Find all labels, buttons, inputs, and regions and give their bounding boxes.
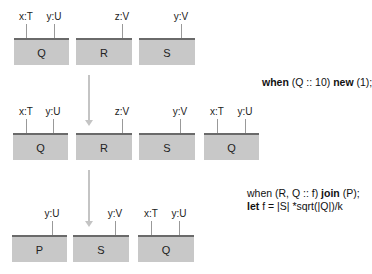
relation-box-q: Q	[138, 235, 194, 262]
attribute-label: y:U	[47, 11, 62, 22]
relation-box-s: S	[139, 133, 195, 160]
attribute-label: y:U	[45, 208, 60, 219]
code-text: (Q :: 10)	[289, 76, 333, 88]
relation-box-q: Q	[204, 133, 259, 160]
relation-box-r: R	[76, 38, 132, 65]
attribute-label: y:V	[174, 11, 188, 22]
arrow-down-1	[88, 75, 90, 121]
attribute-label: z:V	[115, 106, 129, 117]
code-text: when (R, Q :: f)	[247, 187, 321, 199]
relation-box-s: S	[73, 235, 129, 262]
relation-box-s: S	[139, 38, 195, 65]
attribute-label: y:U	[172, 208, 187, 219]
attribute-tick	[181, 24, 182, 38]
attribute-tick	[245, 119, 246, 133]
relation-box-p: P	[12, 235, 67, 262]
attribute-label: y:U	[46, 106, 61, 117]
attribute-tick	[217, 119, 218, 133]
attribute-tick	[26, 119, 27, 133]
relation-box-r: R	[76, 133, 132, 160]
keyword-let: let	[247, 200, 259, 212]
attribute-tick	[180, 119, 181, 133]
step2-line1: when (R, Q :: f) join (P);	[247, 187, 360, 200]
relation-box-q: Q	[13, 133, 68, 160]
keyword-join: join	[321, 187, 340, 199]
attribute-label: y:V	[108, 208, 122, 219]
attribute-label: y:U	[238, 106, 253, 117]
attribute-tick	[151, 221, 152, 235]
step2-line2: let f = |S| *sqrt(|Q|)/k	[247, 200, 360, 213]
attribute-tick	[52, 221, 53, 235]
attribute-label: x:T	[210, 106, 224, 117]
attribute-label: x:T	[144, 208, 158, 219]
step1-code: when (Q :: 10) new (1);	[262, 76, 372, 89]
code-text: (P);	[340, 187, 360, 199]
step2-code: when (R, Q :: f) join (P); let f = |S| *…	[247, 187, 360, 213]
code-text: (1);	[354, 76, 372, 88]
arrow-down-2	[88, 170, 90, 222]
attribute-tick	[26, 24, 27, 38]
attribute-tick	[54, 24, 55, 38]
attribute-label: x:T	[19, 11, 33, 22]
relation-box-q: Q	[14, 38, 69, 65]
attribute-label: x:T	[19, 106, 33, 117]
attribute-tick	[122, 24, 123, 38]
attribute-label: z:V	[115, 11, 129, 22]
code-text: f = |S| *sqrt(|Q|)/k	[259, 200, 343, 212]
attribute-tick	[122, 119, 123, 133]
attribute-tick	[53, 119, 54, 133]
keyword-new: new	[333, 76, 353, 88]
attribute-label: y:V	[173, 106, 187, 117]
attribute-tick	[115, 221, 116, 235]
keyword-when: when	[262, 76, 289, 88]
attribute-tick	[179, 221, 180, 235]
